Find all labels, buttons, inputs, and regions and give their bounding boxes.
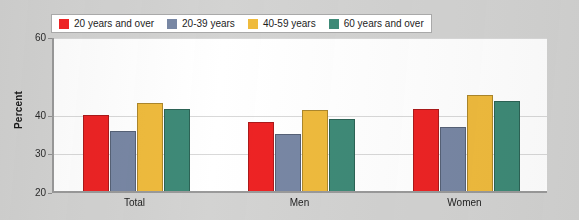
y-tick-label: 30 (24, 149, 46, 159)
gridline (54, 193, 547, 194)
legend-swatch-icon (167, 19, 177, 29)
x-axis-tick-labels: TotalMenWomen (52, 195, 547, 215)
bar-chart-figure: 20 years and over20-39 years40-59 years6… (0, 0, 579, 220)
y-tick-label: 20 (24, 188, 46, 198)
bar-group (83, 38, 190, 191)
legend-swatch-icon (59, 19, 69, 29)
legend-swatch-icon (248, 19, 258, 29)
legend-label: 20-39 years (182, 19, 235, 29)
x-tick-label: Women (447, 197, 481, 208)
chart-legend: 20 years and over20-39 years40-59 years6… (51, 14, 432, 33)
x-tick-label: Men (290, 197, 309, 208)
bar[interactable] (275, 134, 301, 191)
bar[interactable] (467, 95, 493, 191)
bar[interactable] (494, 101, 520, 191)
legend-label: 60 years and over (344, 19, 424, 29)
legend-swatch-icon (329, 19, 339, 29)
bar[interactable] (413, 109, 439, 191)
x-tick-label: Total (124, 197, 145, 208)
plot-area (52, 38, 547, 193)
bar[interactable] (110, 131, 136, 191)
legend-label: 40-59 years (263, 19, 316, 29)
bar-group (248, 38, 355, 191)
bar[interactable] (164, 109, 190, 191)
y-tick-label: 40 (24, 111, 46, 121)
bar[interactable] (440, 127, 466, 191)
legend-label: 20 years and over (74, 19, 154, 29)
bar[interactable] (329, 119, 355, 191)
bar[interactable] (83, 115, 109, 191)
bar[interactable] (302, 110, 328, 191)
legend-item[interactable]: 40-59 years (248, 19, 316, 29)
y-axis-tick-labels: 60403020 (24, 38, 48, 193)
legend-item[interactable]: 20-39 years (167, 19, 235, 29)
bar-group (413, 38, 520, 191)
y-tick-mark (48, 193, 52, 194)
y-tick-label: 60 (24, 33, 46, 43)
bars-layer (54, 38, 547, 191)
bar[interactable] (137, 103, 163, 191)
legend-item[interactable]: 20 years and over (59, 19, 154, 29)
bar[interactable] (248, 122, 274, 191)
legend-item[interactable]: 60 years and over (329, 19, 424, 29)
